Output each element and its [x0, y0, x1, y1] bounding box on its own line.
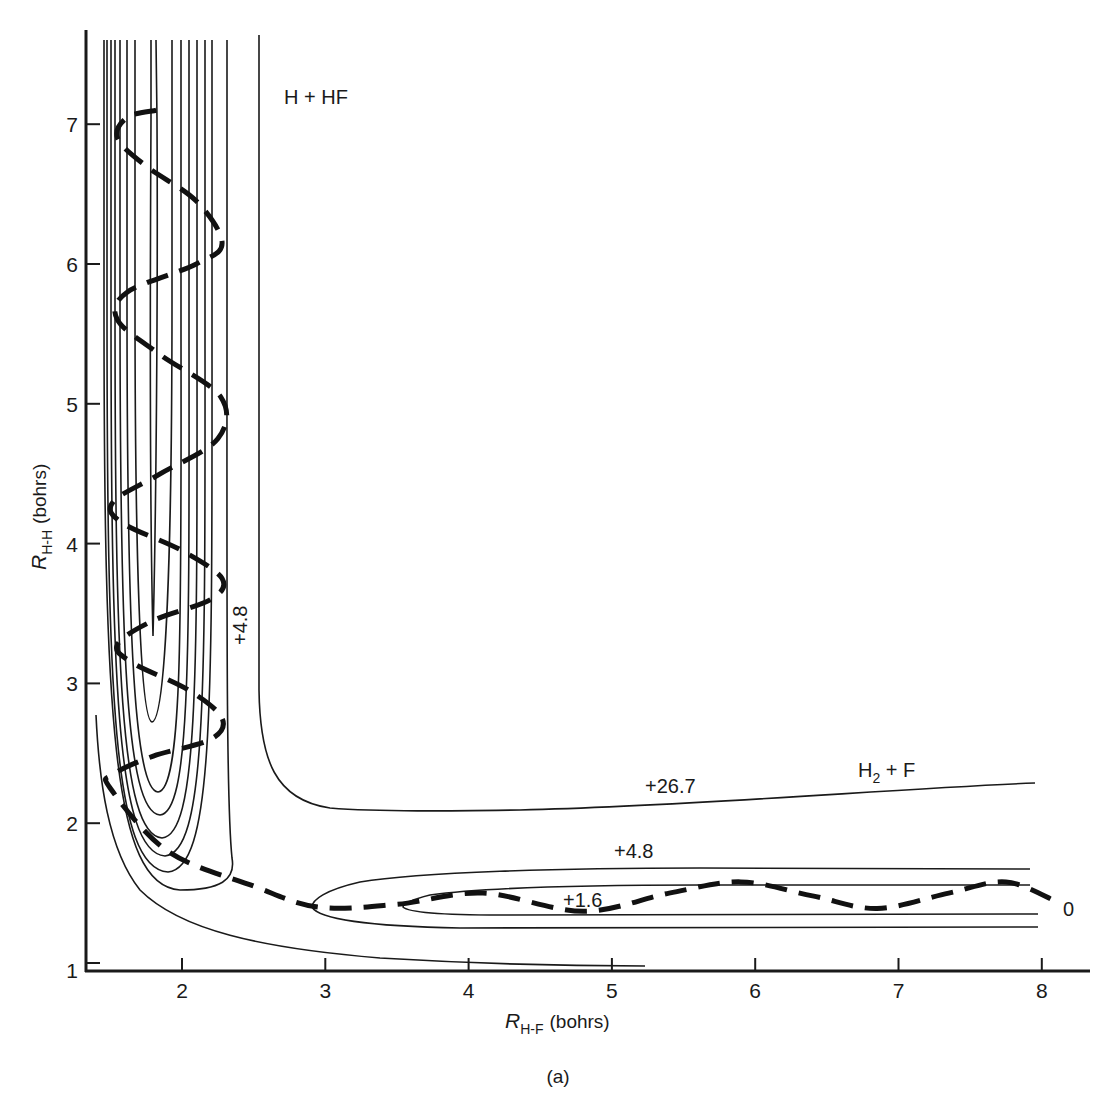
y-tick-label: 1: [66, 959, 78, 982]
contour-26-7: [259, 35, 1035, 811]
h2-f-rest: + F: [880, 759, 915, 781]
contour-label-4-8-reactant: +4.8: [229, 606, 251, 645]
x-tick-label: 2: [176, 979, 188, 1002]
y-tick-label: 6: [66, 253, 78, 276]
y-axis-title: RH-H(bohrs): [27, 464, 55, 570]
x-tick-label: 8: [1036, 979, 1048, 1002]
x-tick-label: 3: [319, 979, 331, 1002]
contour-label-zero: 0: [1063, 898, 1074, 920]
axes: [85, 30, 1090, 972]
h2-f-main: H: [858, 759, 872, 781]
x-tick-label: 6: [749, 979, 761, 1002]
contour-1-6-product: [403, 885, 1038, 915]
x-ticks: 2345678: [176, 958, 1047, 1002]
x-axis-title: RH-F(bohrs): [505, 1009, 610, 1037]
contour-label-1-6: +1.6: [563, 889, 602, 911]
x-tick-label: 5: [606, 979, 618, 1002]
y-tick-label: 7: [66, 113, 78, 136]
x-tick-label: 7: [893, 979, 905, 1002]
y-axis-title-sub: H-H: [39, 530, 55, 555]
h2-f-sub: 2: [872, 770, 880, 786]
y-axis-title-unit: (bohrs): [29, 464, 50, 524]
contour-label-26-7: +26.7: [645, 775, 696, 797]
panel-label: (a): [546, 1066, 569, 1087]
contour-u7: [104, 40, 233, 890]
region-label-h2-f: H2 + F: [858, 759, 915, 786]
x-axis-title-sub: H-F: [520, 1021, 543, 1037]
contour-innermost: [150, 40, 157, 636]
y-tick-label: 2: [66, 812, 78, 835]
y-tick-label: 3: [66, 672, 78, 695]
reactant-valley-contours: [104, 40, 233, 890]
y-axis-title-main: R: [27, 555, 50, 570]
x-tick-label: 4: [463, 979, 475, 1002]
contour-label-4-8-product: +4.8: [614, 840, 653, 862]
contour-plot: 2345678 1234567 H + HF H2 + F +26.7 +4.8…: [0, 0, 1114, 1102]
y-tick-label: 5: [66, 393, 78, 416]
region-label-h-hf: H + HF: [284, 86, 348, 108]
x-axis-title-main: R: [505, 1009, 520, 1032]
y-tick-label: 4: [66, 533, 78, 556]
trajectory-dashed-line: [105, 110, 1056, 911]
x-axis-title-unit: (bohrs): [550, 1011, 610, 1032]
y-ticks: 1234567: [66, 113, 100, 982]
